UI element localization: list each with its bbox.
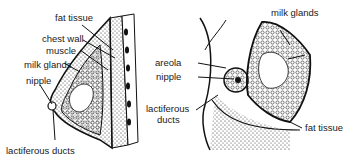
label-areola: areola (155, 58, 181, 68)
label-lactiferous-right-line2: ducts (157, 115, 180, 125)
label-lactiferous-right-line1: lactiferous (146, 104, 189, 114)
label-fat-tissue-right: fat tissue (305, 123, 343, 133)
label-lactiferous-ducts-left: lactiferous ducts (6, 146, 75, 156)
right-front-view (196, 18, 310, 150)
label-nipple-left: nipple (26, 76, 51, 86)
label-muscle: muscle (46, 46, 76, 56)
label-chest-wall: chest wall (42, 34, 84, 44)
label-nipple-right: nipple (156, 72, 181, 82)
label-fat-tissue-left: fat tissue (55, 13, 93, 23)
label-milk-glands-right: milk glands (271, 8, 319, 18)
label-milk-glands-left: milk glands (24, 60, 72, 70)
